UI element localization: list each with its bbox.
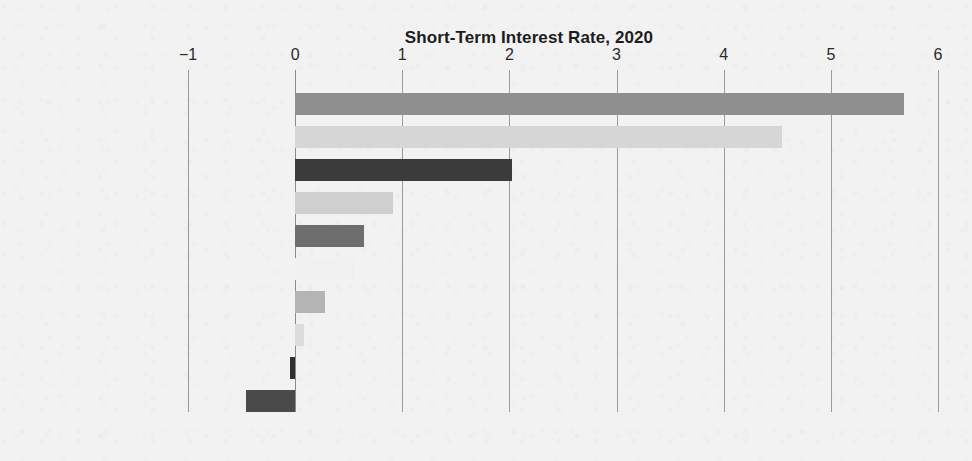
bar[interactable]	[295, 225, 364, 247]
x-tick-label: 2	[505, 46, 514, 64]
x-tick-label: 5	[826, 46, 835, 64]
bar[interactable]	[295, 126, 781, 148]
bar[interactable]	[295, 258, 355, 280]
x-tick-label: 0	[291, 46, 300, 64]
x-tick-label: 4	[719, 46, 728, 64]
bar-row: Israel	[188, 319, 938, 352]
bar[interactable]	[295, 291, 325, 313]
bar-row: Iceland	[188, 154, 938, 187]
bar-row: Canada	[188, 220, 938, 253]
x-tick-label: 6	[934, 46, 943, 64]
bar[interactable]	[295, 159, 511, 181]
bar-chart: Short-Term Interest Rate, 2020 −10123456…	[0, 0, 972, 461]
bar[interactable]	[295, 192, 393, 214]
bar[interactable]	[295, 324, 304, 346]
bar-row: Australia	[188, 286, 938, 319]
bar[interactable]	[246, 390, 295, 412]
bar-row: South Africa	[188, 121, 938, 154]
bar-row: Mexico	[188, 88, 938, 121]
x-tick-label: 1	[398, 46, 407, 64]
bar-row: South Korea	[188, 187, 938, 220]
bar-row: France	[188, 385, 938, 418]
bar-row: United States	[188, 253, 938, 286]
plot-area: −10123456 MexicoSouth AfricaIcelandSouth…	[188, 70, 938, 412]
bar[interactable]	[295, 93, 904, 115]
x-tick-label: 3	[612, 46, 621, 64]
bar[interactable]	[290, 357, 295, 379]
x-tick-label: −1	[179, 46, 197, 64]
bar-row: Japan	[188, 352, 938, 385]
chart-title: Short-Term Interest Rate, 2020	[43, 28, 972, 48]
gridline-6	[938, 70, 939, 412]
